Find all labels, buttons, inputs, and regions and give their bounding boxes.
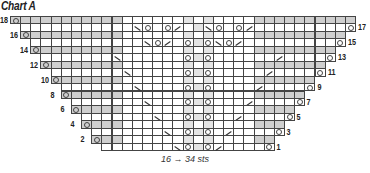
yarn-over-icon <box>185 144 191 150</box>
row-number-label: 3 <box>287 127 291 137</box>
k2tog-decrease-icon <box>215 146 221 151</box>
row-number-label: 14 <box>20 45 28 55</box>
yarn-over-icon <box>43 62 49 68</box>
yarn-over-icon <box>23 32 29 38</box>
yarn-over-icon <box>13 18 19 24</box>
chart-cell <box>304 83 315 91</box>
row-number-label: 17 <box>358 22 366 32</box>
row-number-label: 12 <box>30 60 38 70</box>
yarn-over-icon <box>33 47 39 53</box>
row-number-label: 18 <box>0 15 8 25</box>
yarn-over-icon <box>297 99 303 105</box>
row-number-label: 5 <box>297 112 301 122</box>
row-number-label: 1 <box>276 142 280 152</box>
yarn-over-icon <box>205 144 211 150</box>
yarn-over-icon <box>287 114 293 120</box>
chart-cell <box>284 113 295 121</box>
chart-cell <box>294 98 305 106</box>
row-number-label: 15 <box>348 37 356 47</box>
yarn-over-icon <box>307 85 313 91</box>
row-number-label: 6 <box>60 104 64 114</box>
row-number-label: 13 <box>338 52 346 62</box>
row-number-label: 7 <box>307 97 311 107</box>
row-number-label: 8 <box>50 90 54 100</box>
chart-cell <box>345 23 356 31</box>
row-number-label: 4 <box>71 119 75 129</box>
yarn-over-icon <box>337 40 343 46</box>
chart-cell <box>325 53 336 61</box>
yarn-over-icon <box>94 137 100 143</box>
yarn-over-icon <box>348 25 354 31</box>
yarn-over-icon <box>317 70 323 76</box>
yarn-over-icon <box>276 129 282 135</box>
stitch-count-caption: 16 → 34 sts <box>0 154 370 164</box>
knitting-chart-grid: 181716151413121110987654321 <box>0 0 370 173</box>
row-number-label: 9 <box>317 82 321 92</box>
yarn-over-icon <box>53 77 59 83</box>
chart-cell <box>264 143 275 151</box>
row-number-label: 11 <box>328 67 336 77</box>
yarn-over-icon <box>327 55 333 61</box>
row-number-label: 2 <box>81 134 85 144</box>
row-number-label: 10 <box>41 75 49 85</box>
yarn-over-icon <box>266 144 272 150</box>
chart-cell <box>274 128 285 136</box>
chart-cell <box>315 68 326 76</box>
chart-cell <box>335 38 346 46</box>
yarn-over-icon <box>73 107 79 113</box>
yarn-over-icon <box>84 122 90 128</box>
yarn-over-icon <box>63 92 69 98</box>
row-number-label: 16 <box>10 30 18 40</box>
ssk-decrease-icon <box>175 146 181 151</box>
